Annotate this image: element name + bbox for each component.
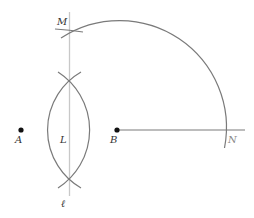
label-m: M xyxy=(56,16,68,27)
label-n: N xyxy=(227,134,238,145)
point-a xyxy=(18,127,23,132)
point-b xyxy=(114,127,119,132)
arc-m-to-n xyxy=(61,21,226,148)
label-b: B xyxy=(109,134,117,145)
label-l: L xyxy=(59,134,67,145)
label-ell: ℓ xyxy=(61,198,65,209)
arc-centered-a xyxy=(58,72,90,188)
construction-diagram: M A L B N ℓ xyxy=(0,0,254,218)
label-a: A xyxy=(14,134,22,145)
